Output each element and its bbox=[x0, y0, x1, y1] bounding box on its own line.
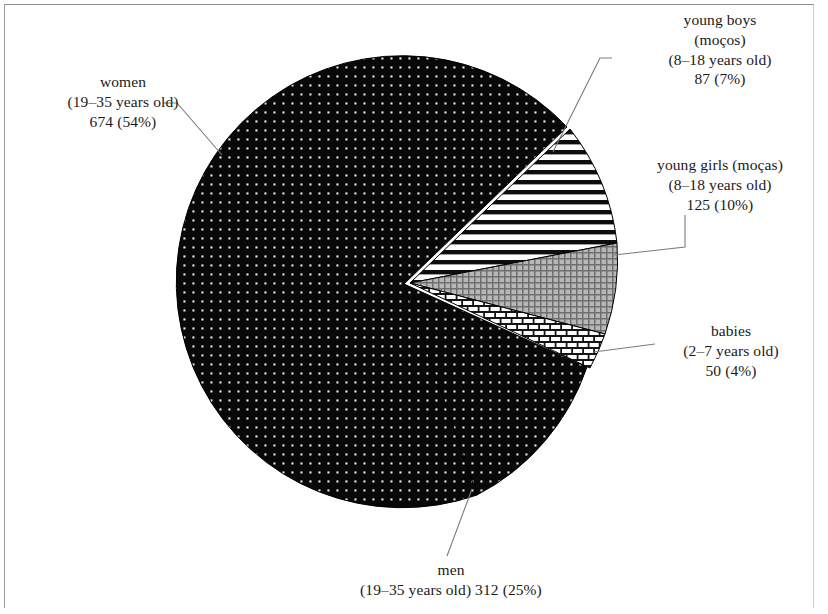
chart-page: women (19–35 years old) 674 (54%) young … bbox=[0, 0, 828, 614]
slice-label-men-line2: (19–35 years old) 312 (25%) bbox=[296, 580, 606, 600]
slice-label-babies: babies (2–7 years old) 50 (4%) bbox=[636, 321, 826, 380]
slice-label-women-line3: 674 (54%) bbox=[8, 112, 238, 132]
slice-label-young-girls-line3: 125 (10%) bbox=[612, 195, 828, 215]
slice-label-men: men (19–35 years old) 312 (25%) bbox=[296, 560, 606, 600]
slice-label-young-boys-line1: young boys bbox=[612, 10, 828, 30]
slice-label-babies-line3: 50 (4%) bbox=[636, 361, 826, 381]
slice-label-women: women (19–35 years old) 674 (54%) bbox=[8, 72, 238, 131]
slice-label-babies-line1: babies bbox=[636, 321, 826, 341]
slice-label-young-boys-line3: (8–18 years old) bbox=[612, 50, 828, 70]
slice-label-men-line1: men bbox=[296, 560, 606, 580]
slice-label-young-boys-line2: (moços) bbox=[612, 30, 828, 50]
slice-label-women-line2: (19–35 years old) bbox=[8, 92, 238, 112]
slice-label-babies-line2: (2–7 years old) bbox=[636, 341, 826, 361]
slice-label-young-girls: young girls (moças) (8–18 years old) 125… bbox=[612, 155, 828, 214]
slice-label-young-girls-line1: young girls (moças) bbox=[612, 155, 828, 175]
slice-label-young-boys: young boys (moços) (8–18 years old) 87 (… bbox=[612, 10, 828, 89]
slice-label-women-line1: women bbox=[8, 72, 238, 92]
leader-line-young-girls bbox=[614, 215, 685, 255]
slice-label-young-boys-line4: 87 (7%) bbox=[612, 69, 828, 89]
slice-label-young-girls-line2: (8–18 years old) bbox=[612, 175, 828, 195]
